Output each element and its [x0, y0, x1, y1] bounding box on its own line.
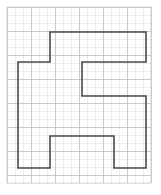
figure-canvas [0, 0, 161, 195]
grid-polygon-svg [0, 0, 161, 195]
